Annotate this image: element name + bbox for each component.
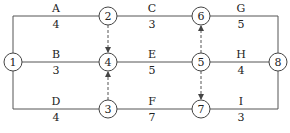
node-4: 4 xyxy=(99,53,117,71)
label-H-name: H xyxy=(236,48,246,61)
node-8: 8 xyxy=(269,53,287,71)
label-D-name: D xyxy=(52,95,61,108)
label-I-duration: 3 xyxy=(238,111,245,124)
node-3: 3 xyxy=(99,100,117,118)
node-8-label: 8 xyxy=(275,56,282,69)
node-5: 5 xyxy=(192,53,210,71)
node-7-label: 7 xyxy=(198,103,205,116)
node-6: 6 xyxy=(192,7,210,25)
label-F-duration: 7 xyxy=(149,111,156,124)
activity-network-diagram: A 4 B 3 D 4 C 3 E 5 F 7 G 5 H 4 I 3 1 xyxy=(0,0,290,133)
label-H-duration: 4 xyxy=(238,64,245,77)
node-5-label: 5 xyxy=(198,56,205,69)
node-1: 1 xyxy=(4,53,22,71)
label-C-duration: 3 xyxy=(149,18,156,31)
label-B-duration: 3 xyxy=(53,64,60,77)
node-4-label: 4 xyxy=(105,56,112,69)
label-A-name: A xyxy=(51,2,61,15)
label-A-duration: 4 xyxy=(53,18,60,31)
activity-labels: A 4 B 3 D 4 C 3 E 5 F 7 G 5 H 4 I 3 xyxy=(51,2,246,124)
label-E-duration: 5 xyxy=(149,64,156,77)
node-2-label: 2 xyxy=(105,10,112,23)
node-2: 2 xyxy=(99,7,117,25)
label-C-name: C xyxy=(148,2,156,15)
label-G-name: G xyxy=(237,2,246,15)
label-D-duration: 4 xyxy=(53,111,60,124)
label-E-name: E xyxy=(148,48,156,61)
node-3-label: 3 xyxy=(105,103,112,116)
label-B-name: B xyxy=(52,48,60,61)
label-I-name: I xyxy=(239,95,243,108)
label-F-name: F xyxy=(148,95,156,108)
node-7: 7 xyxy=(192,100,210,118)
node-1-label: 1 xyxy=(10,56,17,69)
node-6-label: 6 xyxy=(198,10,205,23)
label-G-duration: 5 xyxy=(238,18,245,31)
